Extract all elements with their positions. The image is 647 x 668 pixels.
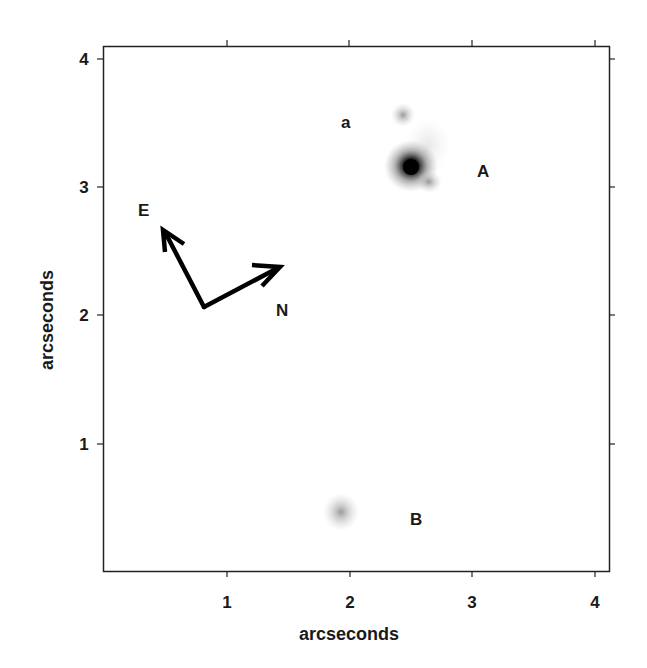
- x-tick-label-3: 3: [467, 593, 476, 612]
- y-tick-label-1: 1: [79, 435, 88, 454]
- y-axis-left: [97, 59, 103, 444]
- star-B-psf: [323, 493, 359, 531]
- x-tick-label-2: 2: [345, 593, 354, 612]
- label-east: E: [138, 201, 149, 220]
- x-tick-label-1: 1: [222, 593, 231, 612]
- east-arrow-icon: [166, 234, 204, 307]
- chart-figure: a A B E N 1 2 3 4 4 3: [0, 0, 647, 668]
- label-star-A: A: [477, 162, 489, 181]
- star-A-lobe: [416, 171, 442, 193]
- y-tick-label-3: 3: [79, 178, 88, 197]
- y-tick-label-2: 2: [79, 306, 88, 325]
- y-tick-label-4: 4: [79, 50, 89, 69]
- star-images: [323, 103, 450, 531]
- star-a-psf: [391, 103, 415, 127]
- compass: E N: [138, 201, 288, 320]
- label-star-B: B: [410, 510, 422, 529]
- x-axis-label: arcseconds: [299, 624, 399, 644]
- y-axis-label: arcseconds: [37, 270, 57, 370]
- x-tick-label-4: 4: [590, 593, 600, 612]
- north-arrow-icon: [204, 269, 276, 307]
- label-star-a: a: [341, 113, 351, 132]
- star-A-core: [403, 159, 419, 175]
- label-north: N: [276, 301, 288, 320]
- plot-frame: [104, 47, 610, 572]
- x-axis-top: [227, 40, 595, 46]
